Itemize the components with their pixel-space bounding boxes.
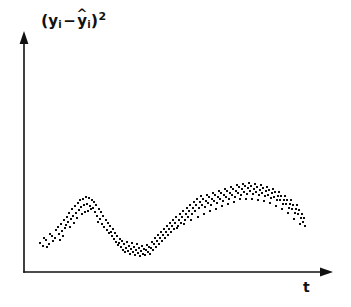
scatter-point — [221, 205, 223, 207]
scatter-point — [108, 232, 110, 234]
scatter-point — [265, 190, 267, 192]
scatter-point — [78, 209, 80, 211]
scatter-point — [228, 198, 230, 200]
scatter-point — [99, 218, 101, 220]
scatter-point — [214, 194, 216, 196]
scatter-point — [245, 198, 247, 200]
scatter-point — [81, 213, 83, 215]
scatter-point — [84, 211, 86, 213]
scatter-point — [279, 199, 281, 201]
y-axis-label: (yi−^yi)2 — [41, 11, 106, 30]
scatter-point — [246, 193, 248, 195]
scatter-point — [93, 201, 95, 203]
scatter-point — [199, 201, 201, 203]
scatter-point — [194, 210, 196, 212]
scatter-point — [303, 217, 305, 219]
scatter-point — [287, 212, 289, 214]
scatter-point — [256, 186, 258, 188]
plot-canvas — [0, 0, 351, 307]
scatter-point — [193, 201, 195, 203]
scatter-point — [64, 227, 66, 229]
scatter-point — [254, 183, 256, 185]
scatter-point — [192, 207, 194, 209]
scatter-point — [79, 199, 81, 201]
scatter-point — [48, 243, 50, 245]
scatter-point — [269, 202, 271, 204]
scatter-point — [186, 207, 188, 209]
scatter-point — [277, 195, 279, 197]
scatter-point — [97, 221, 99, 223]
scatter-point — [268, 189, 270, 191]
scatter-point — [138, 247, 140, 249]
scatter-point — [301, 213, 303, 215]
scatter-point — [190, 219, 192, 221]
scatter-point — [205, 200, 207, 202]
scatter-point — [155, 246, 157, 248]
scatter-point — [168, 228, 170, 230]
scatter-point — [300, 217, 302, 219]
scatter-point — [203, 213, 205, 215]
scatter-point — [110, 231, 112, 233]
scatter-point — [87, 210, 89, 212]
scatter-point — [217, 196, 219, 198]
scatter-point — [148, 246, 150, 248]
scatter-point — [162, 234, 164, 236]
scatter-point — [61, 230, 63, 232]
scatter-point — [139, 255, 141, 257]
scatter-point — [241, 188, 243, 190]
scatter-point — [117, 244, 119, 246]
scatter-point — [276, 199, 278, 201]
scatter-point — [223, 194, 225, 196]
scatter-point — [236, 184, 238, 186]
scatter-point — [49, 233, 51, 235]
scatter-point — [96, 215, 98, 217]
scatter-point — [196, 198, 198, 200]
scatter-point — [136, 243, 138, 245]
scatter-point — [299, 223, 301, 225]
scatter-point — [134, 254, 136, 256]
scatter-point — [122, 249, 124, 251]
scatter-point — [288, 207, 290, 209]
scatter-point — [216, 202, 218, 204]
scatter-point — [285, 203, 287, 205]
scatter-point — [150, 247, 152, 249]
scatter-point — [259, 189, 261, 191]
scatter-point — [159, 237, 161, 239]
scatter-point — [94, 211, 96, 213]
scatter-point — [197, 216, 199, 218]
scatter-point — [120, 246, 122, 248]
scatter-point — [243, 191, 245, 193]
scatter-point — [111, 235, 113, 237]
scatter-point — [175, 216, 177, 218]
scatter-point — [98, 208, 100, 210]
scatter-point — [58, 233, 60, 235]
scatter-point — [248, 182, 250, 184]
scatter-point — [151, 241, 153, 243]
scatter-point — [42, 245, 44, 247]
scatter-point — [278, 191, 280, 193]
scatter-point — [275, 205, 277, 207]
scatter-point — [59, 239, 61, 241]
scatter-point — [169, 222, 171, 224]
y-label-close-paren: ) — [91, 11, 98, 30]
scatter-point — [296, 204, 298, 206]
scatter-point — [65, 224, 67, 226]
scatter-point — [129, 253, 131, 255]
scatter-point — [183, 223, 185, 225]
scatter-point — [145, 249, 147, 251]
scatter-point — [69, 226, 71, 228]
scatter-point — [133, 246, 135, 248]
scatter-point — [128, 245, 130, 247]
scatter-point — [206, 194, 208, 196]
scatter-point — [185, 213, 187, 215]
scatter-point — [247, 187, 249, 189]
scatter-point — [101, 223, 103, 225]
scatter-point — [204, 206, 206, 208]
scatter-point — [146, 244, 148, 246]
scatter-point — [102, 215, 104, 217]
scatter-point — [140, 250, 142, 252]
scatter-point — [213, 200, 215, 202]
scatter-point — [255, 191, 257, 193]
scatter-point — [137, 252, 139, 254]
scatter-point — [164, 237, 166, 239]
